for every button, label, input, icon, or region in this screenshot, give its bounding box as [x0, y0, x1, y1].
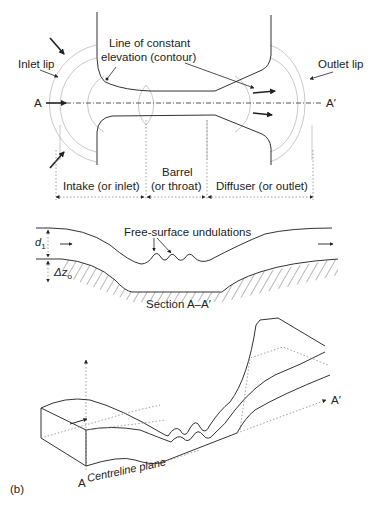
- depth-label: d1: [35, 236, 46, 251]
- centre-surface: [86, 352, 325, 442]
- isometric-view: A A′ Centreline plane (b): [10, 318, 341, 495]
- upper-surface: [41, 318, 325, 436]
- hidden-edge-3: [240, 347, 328, 430]
- inlet-block: [41, 408, 86, 466]
- iso-start-label: A: [78, 477, 86, 489]
- undulations-label: Free-surface undulations: [124, 226, 251, 238]
- inlet-lip-label: Inlet lip: [18, 58, 54, 70]
- centreline-plane-label: Centreline plane: [86, 456, 167, 484]
- barrel-label-1: Barrel: [162, 166, 193, 178]
- figure-label: (b): [10, 483, 24, 495]
- channel-bed-hatch: [62, 259, 338, 302]
- section-start-label: A: [34, 97, 42, 109]
- base-surface: [86, 375, 330, 466]
- contour-label-1: Line of constant: [109, 37, 191, 49]
- culvert-diagram: Line of constant elevation (contour) Inl…: [0, 0, 374, 509]
- outlet-lip-leader: [310, 72, 333, 79]
- approach-arrow-bottom: [50, 152, 64, 168]
- barrel-label-2: (or throat): [151, 180, 202, 192]
- diffuser-label: Diffuser (or outlet): [216, 180, 308, 192]
- section-view: Free-surface undulations d1 Δzo Section …: [35, 226, 338, 310]
- iso-end-label: A′: [331, 394, 341, 406]
- outflow-arrow-bottom: [253, 113, 272, 115]
- intake-label: Intake (or inlet): [63, 180, 140, 192]
- contour-leader: [107, 67, 116, 79]
- section-caption: Section A–A′: [146, 298, 211, 310]
- inlet-lip-leader: [40, 70, 58, 77]
- outlet-lip-label: Outlet lip: [318, 58, 363, 70]
- iso-flow-arrow: [70, 419, 87, 424]
- approach-arrow-top: [50, 38, 64, 54]
- centreline-axis: [237, 400, 326, 433]
- contour-label-2: elevation (contour): [101, 51, 196, 63]
- outlet-contours: [207, 45, 312, 162]
- contour-point-marker: [106, 78, 109, 81]
- undulation-leader-2: [157, 238, 171, 253]
- outflow-arrow-top: [253, 91, 275, 93]
- plan-view: Line of constant elevation (contour) Inl…: [18, 12, 363, 200]
- section-end-label: A′: [326, 97, 336, 109]
- contour-leader-right: [185, 63, 254, 88]
